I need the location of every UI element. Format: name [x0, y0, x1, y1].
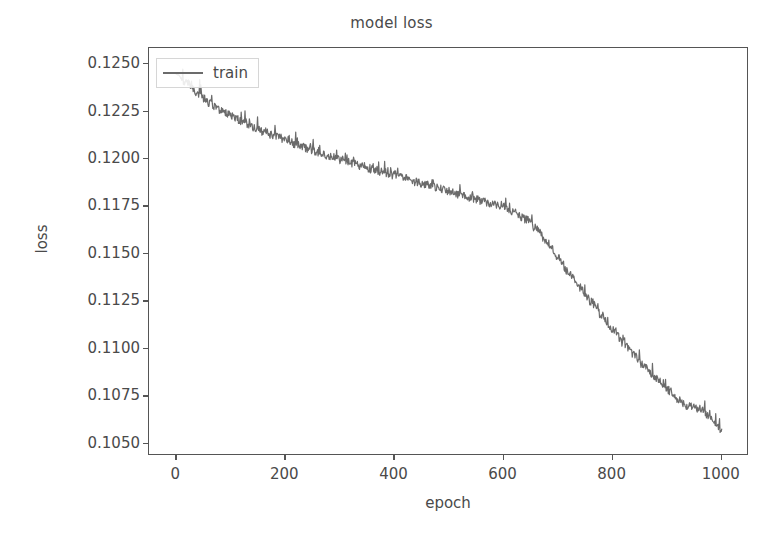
y-tick-label: 0.1200	[50, 149, 140, 167]
y-tick-label: 0.1125	[50, 291, 140, 309]
y-tick-label: 0.1150	[50, 244, 140, 262]
y-tick-label: 0.1250	[50, 54, 140, 72]
y-tick-label: 0.1050	[50, 434, 140, 452]
series-line-train	[176, 69, 721, 432]
matplotlib-figure: model loss loss epoch 0.10500.10750.1100…	[0, 0, 783, 537]
plot-area	[148, 47, 748, 455]
x-tick-label: 600	[463, 465, 543, 483]
x-axis-label: epoch	[148, 494, 748, 512]
legend-label-train: train	[213, 66, 248, 81]
legend[interactable]: train	[156, 58, 259, 88]
chart-title: model loss	[0, 14, 783, 32]
y-tick-label: 0.1100	[50, 339, 140, 357]
x-tick-label: 1000	[681, 465, 761, 483]
y-axis-label: loss	[33, 189, 51, 289]
y-tick-label: 0.1225	[50, 102, 140, 120]
y-tick-label: 0.1075	[50, 386, 140, 404]
legend-line-swatch-train	[163, 72, 203, 74]
y-tick-label: 0.1175	[50, 196, 140, 214]
x-tick-label: 800	[572, 465, 652, 483]
x-tick-label: 400	[353, 465, 433, 483]
x-tick-label: 0	[135, 465, 215, 483]
x-tick-label: 200	[244, 465, 324, 483]
loss-curve-svg	[149, 48, 749, 456]
